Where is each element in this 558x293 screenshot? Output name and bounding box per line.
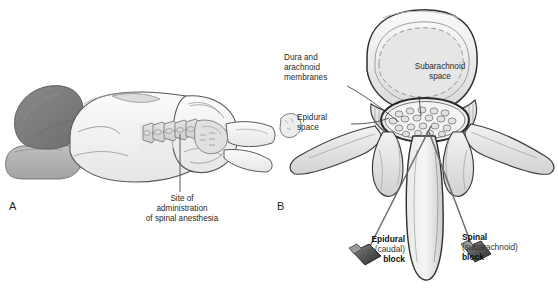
panel-label-b: B	[277, 200, 285, 212]
spinal-block-line1: Spinal	[462, 232, 487, 242]
panel-label-a: A	[9, 200, 17, 212]
label-spinal-subarachnoid-block: Spinal (subarachnoid) block	[462, 232, 540, 262]
epidural-block-line1: Epidural	[371, 234, 405, 244]
epidural-block-line3: block	[383, 254, 405, 264]
epidural-block-line2: (caudal)	[375, 244, 405, 254]
callout-site-of-administration: Site of administration of spinal anesthe…	[118, 194, 246, 225]
callout-subarachnoid-space: Subarachnoid space	[400, 62, 480, 82]
panel-a-illustration	[0, 0, 279, 293]
transverse-process-right	[465, 124, 554, 174]
figure-canvas: A B Site of administration of spinal ane…	[0, 0, 558, 293]
label-epidural-caudal-block: Epidural (caudal) block	[343, 234, 405, 264]
spinal-block-line3: block	[462, 252, 484, 262]
callout-dura-arachnoid-membranes: Dura and arachnoid membranes	[284, 53, 346, 84]
panel-a	[0, 0, 279, 293]
callout-epidural-space: Epidural space	[297, 113, 349, 133]
spinous-process	[406, 136, 443, 280]
spinal-block-line2: (subarachnoid)	[462, 242, 518, 252]
